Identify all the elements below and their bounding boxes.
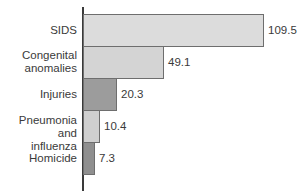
bar-pneumonia-influenza <box>83 110 100 143</box>
bar-sids <box>83 14 264 47</box>
label-text: Homicide <box>29 152 77 164</box>
category-label-pneumonia: Pneumonia and influenza <box>0 114 77 153</box>
bar-homicide <box>83 142 95 175</box>
category-label-congenital: Congenital anomalies <box>22 49 77 75</box>
value-label-congenital: 49.1 <box>168 56 190 69</box>
bar-injuries <box>83 78 117 111</box>
label-text: Injuries <box>40 88 77 100</box>
label-text: Congenital <box>22 49 77 62</box>
value-label-pneumonia: 10.4 <box>104 120 126 133</box>
value-label-injuries: 20.3 <box>121 88 143 101</box>
category-label-injuries: Injuries <box>40 88 77 101</box>
category-label-sids: SIDS <box>50 24 77 37</box>
label-text: SIDS <box>50 24 77 36</box>
label-text: Pneumonia and <box>0 114 77 140</box>
value-label-homicide: 7.3 <box>99 152 115 165</box>
bar-congenital-anomalies <box>83 46 164 79</box>
value-label-sids: 109.5 <box>268 24 297 37</box>
category-label-homicide: Homicide <box>29 152 77 165</box>
label-text: anomalies <box>22 62 77 75</box>
